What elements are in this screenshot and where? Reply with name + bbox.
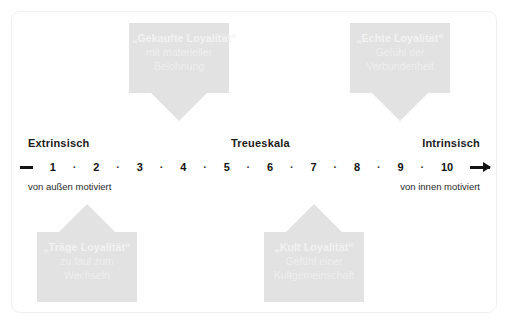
sublabel-von-innen-motiviert: von innen motiviert [400,181,480,192]
tick-4: 4 [180,157,186,177]
tick-7: 7 [311,157,317,177]
sublabel-von-aussen-motiviert: von außen motiviert [28,181,111,192]
tick-9: 9 [397,157,403,177]
tick-separator: · [160,157,164,177]
tick-2: 2 [93,157,99,177]
callout-kult-line1: Gefühl einer [267,254,361,268]
tick-separator: · [116,157,120,177]
callout-gekaufte-title: „Gekaufte Loyalität“ [132,31,226,45]
scale-axis: 1 · 2 · 3 · 4 · 5 · 6 · 7 · 8 · 9 · 10 [20,157,490,177]
tick-separator: · [73,157,77,177]
callout-traege-line2: Wechseln [40,268,134,282]
arrow-down-icon [372,93,428,121]
tick-separator: · [203,157,207,177]
arrow-up-icon [286,204,342,232]
tick-separator: · [420,157,424,177]
tick-6: 6 [267,157,273,177]
callout-kult-line2: Kultgemeinschaft [267,268,361,282]
treueskala-scale: Extrinsisch Treueskala Intrinsisch 1 · 2… [12,137,496,199]
tick-5: 5 [224,157,230,177]
callout-echte-line1: Gefühl der [353,45,447,59]
tick-8: 8 [354,157,360,177]
callout-echte-box: „Echte Loyalität“ Gefühl der Verbundenhe… [350,23,450,93]
callout-gekaufte-line1: mit materieller [132,45,226,59]
callout-traege-title: „Träge Loyalität“ [40,240,134,254]
arrow-down-icon [151,93,207,121]
callout-kult-title: „Kult Loyalität“ [267,240,361,254]
callout-kult-box: „Kult Loyalität“ Gefühl einer Kultgemein… [264,232,364,302]
tick-separator: · [247,157,251,177]
label-intrinsisch: Intrinsisch [422,137,480,149]
label-treueskala: Treueskala [231,137,290,149]
callout-echte-line2: Verbundenheit [353,59,447,73]
label-extrinsisch: Extrinsisch [28,137,90,149]
tick-10: 10 [441,157,453,177]
callout-gekaufte-line2: Belohnung [132,59,226,73]
arrow-up-icon [59,204,115,232]
tick-3: 3 [137,157,143,177]
callout-traege-box: „Träge Loyalität“ zu faul zum Wechseln [37,232,137,302]
axis-end-arrow-icon [470,166,490,169]
callout-echte-title: „Echte Loyalität“ [353,31,447,45]
diagram-card: „Gekaufte Loyalität“ mit materieller Bel… [11,11,497,313]
callout-traege-line1: zu faul zum [40,254,134,268]
tick-1: 1 [50,157,56,177]
tick-separator: · [290,157,294,177]
callout-gekaufte-box: „Gekaufte Loyalität“ mit materieller Bel… [129,23,229,93]
axis-start-dash-icon [20,166,33,169]
tick-separator: · [334,157,338,177]
tick-separator: · [377,157,381,177]
